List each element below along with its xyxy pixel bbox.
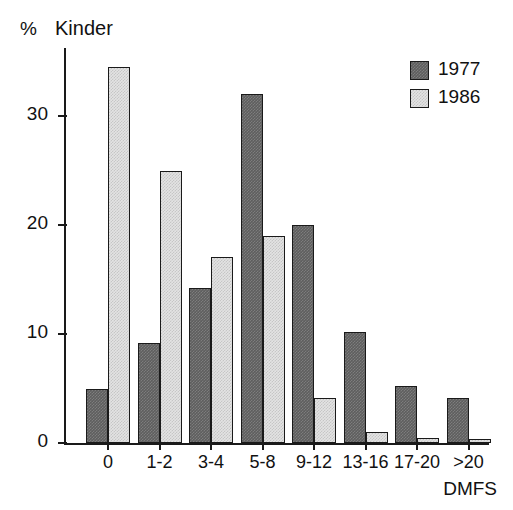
legend-label: 1986 — [438, 86, 480, 108]
x-tick-mark — [107, 445, 109, 450]
bar-1986-0 — [108, 67, 130, 443]
x-tick-mark — [159, 445, 161, 450]
bar-1986-1-2 — [160, 171, 182, 444]
bar-1977-0 — [86, 389, 108, 444]
bar-1986-17-20 — [417, 438, 439, 443]
bar-1986-5-8 — [263, 236, 285, 443]
bar-1977-3-4 — [189, 288, 211, 443]
legend-swatch-1986 — [410, 89, 429, 108]
bar-1986->20 — [469, 439, 491, 443]
bar-1977-1-2 — [138, 343, 160, 443]
x-tick-mark — [210, 445, 212, 450]
bar-1986-3-4 — [211, 257, 233, 443]
bar-1977-9-12 — [292, 225, 314, 443]
x-tick-mark — [262, 445, 264, 450]
x-axis-title: DMFS — [443, 478, 497, 500]
x-tick-mark — [468, 445, 470, 450]
x-tick-label: >20 — [439, 452, 499, 473]
bar-1986-9-12 — [314, 398, 336, 443]
bar-1977-17-20 — [395, 386, 417, 443]
legend-label: 1977 — [438, 58, 480, 80]
x-tick-mark — [416, 445, 418, 450]
bar-1977->20 — [447, 398, 469, 443]
bars-layer — [0, 0, 513, 510]
bar-1977-5-8 — [241, 94, 263, 443]
bar-1986-13-16 — [366, 432, 388, 443]
x-tick-mark — [313, 445, 315, 450]
x-tick-mark — [365, 445, 367, 450]
legend-swatch-1977 — [410, 61, 429, 80]
bar-chart: % Kinder 0102030 01-23-45-89-1213-1617-2… — [0, 0, 513, 510]
bar-1977-13-16 — [344, 332, 366, 443]
